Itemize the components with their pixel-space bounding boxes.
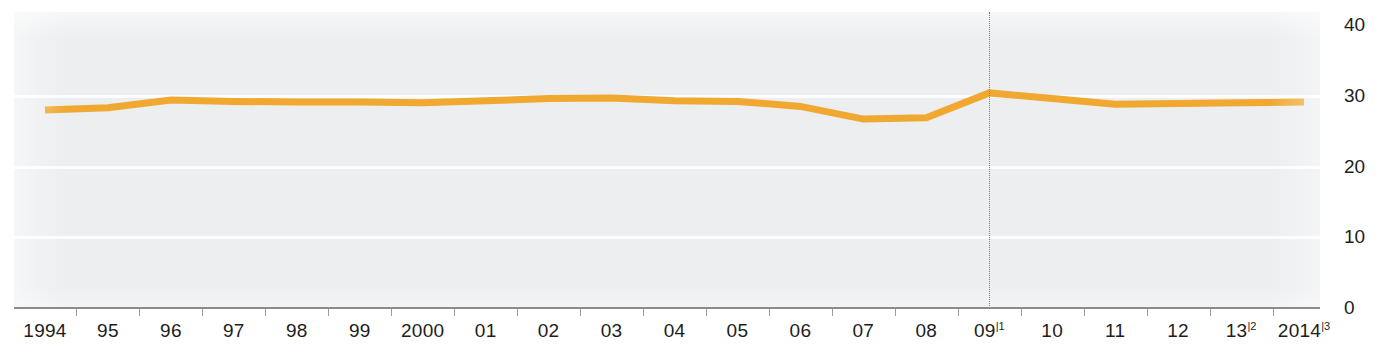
x-tick-07 bbox=[895, 309, 896, 316]
x-axis-label-1994: 1994 bbox=[23, 320, 66, 342]
series-1-line bbox=[45, 93, 1304, 119]
x-axis-label-10: 10 bbox=[1041, 320, 1063, 342]
x-axis-label-text: 09 bbox=[974, 320, 996, 341]
x-axis-label-text: 01 bbox=[475, 320, 497, 341]
x-axis-label-text: 97 bbox=[223, 320, 245, 341]
x-axis-label-text: 07 bbox=[852, 320, 874, 341]
x-axis-label-text: 02 bbox=[538, 320, 560, 341]
x-tick-98 bbox=[328, 309, 329, 316]
x-tick-95 bbox=[139, 309, 140, 316]
y-axis-label-40: 40 bbox=[1344, 14, 1365, 36]
x-tick-09 bbox=[1021, 309, 1022, 316]
x-tick-97 bbox=[265, 309, 266, 316]
x-axis-label-text: 2000 bbox=[401, 320, 444, 341]
x-axis-label-text: 10 bbox=[1041, 320, 1063, 341]
x-axis-label-text: 1994 bbox=[23, 320, 66, 341]
x-tick-05 bbox=[769, 309, 770, 316]
x-axis-label-text: 96 bbox=[160, 320, 182, 341]
series-line-svg bbox=[14, 12, 1320, 308]
x-tick-2000 bbox=[454, 309, 455, 316]
x-tick-08 bbox=[958, 309, 959, 316]
x-axis-label-97: 97 bbox=[223, 320, 245, 342]
x-axis-label-text: 04 bbox=[664, 320, 686, 341]
x-tick-01 bbox=[517, 309, 518, 316]
x-tick-99 bbox=[391, 309, 392, 316]
x-axis-label-text: 95 bbox=[97, 320, 119, 341]
x-axis-label-text: 06 bbox=[790, 320, 812, 341]
x-axis-label-text: 11 bbox=[1105, 320, 1125, 341]
footnote-marker-2: |2 bbox=[1247, 320, 1256, 332]
line-chart: 199495969798992000010203040506070809|110… bbox=[0, 0, 1388, 356]
x-axis-label-95: 95 bbox=[97, 320, 119, 342]
x-axis-label-2014: 2014|3 bbox=[1278, 320, 1330, 342]
x-tick-12 bbox=[1210, 309, 1211, 316]
x-axis-label-01: 01 bbox=[475, 320, 497, 342]
x-axis-label-text: 2014 bbox=[1278, 320, 1321, 341]
x-axis-line bbox=[14, 307, 1320, 309]
y-axis-label-20: 20 bbox=[1344, 156, 1365, 178]
x-axis-label-09: 09|1 bbox=[974, 320, 1005, 342]
x-axis-label-text: 13 bbox=[1226, 320, 1248, 341]
x-axis-label-13: 13|2 bbox=[1226, 320, 1257, 342]
x-axis-label-text: 12 bbox=[1167, 320, 1189, 341]
footnote-marker-3: |3 bbox=[1321, 320, 1330, 332]
x-tick-03 bbox=[643, 309, 644, 316]
y-axis-label-10: 10 bbox=[1344, 226, 1365, 248]
x-axis-label-text: 99 bbox=[349, 320, 371, 341]
y-axis-label-0: 0 bbox=[1344, 297, 1355, 319]
x-tick-10 bbox=[1084, 309, 1085, 316]
x-tick-11 bbox=[1147, 309, 1148, 316]
break-in-series-marker bbox=[989, 12, 990, 308]
footnote-marker-1: |1 bbox=[996, 320, 1005, 332]
x-axis-label-99: 99 bbox=[349, 320, 371, 342]
x-axis-label-96: 96 bbox=[160, 320, 182, 342]
x-axis-label-12: 12 bbox=[1167, 320, 1189, 342]
x-axis-label-03: 03 bbox=[601, 320, 623, 342]
x-axis-label-06: 06 bbox=[790, 320, 812, 342]
x-axis-label-text: 05 bbox=[727, 320, 749, 341]
plot-area bbox=[14, 12, 1320, 308]
x-tick-04 bbox=[706, 309, 707, 316]
y-axis-label-30: 30 bbox=[1344, 85, 1365, 107]
x-axis-label-04: 04 bbox=[664, 320, 686, 342]
x-tick-1994 bbox=[76, 309, 77, 316]
x-axis-label-2000: 2000 bbox=[401, 320, 444, 342]
x-axis-label-05: 05 bbox=[727, 320, 749, 342]
x-tick-02 bbox=[580, 309, 581, 316]
x-axis-label-text: 98 bbox=[286, 320, 308, 341]
x-axis-label-07: 07 bbox=[852, 320, 874, 342]
x-tick-06 bbox=[832, 309, 833, 316]
x-axis-label-02: 02 bbox=[538, 320, 560, 342]
x-axis-label-98: 98 bbox=[286, 320, 308, 342]
x-tick-13 bbox=[1273, 309, 1274, 316]
x-axis-label-11: 11 bbox=[1105, 320, 1125, 342]
x-axis-label-08: 08 bbox=[915, 320, 937, 342]
x-axis-label-text: 03 bbox=[601, 320, 623, 341]
x-axis-label-text: 08 bbox=[915, 320, 937, 341]
x-tick-96 bbox=[202, 309, 203, 316]
